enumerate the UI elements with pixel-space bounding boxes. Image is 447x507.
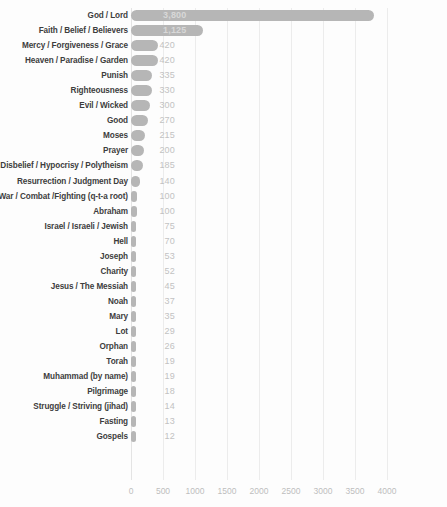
category-label: Faith / Belief / Believers: [39, 23, 128, 38]
x-tick-label: 2000: [250, 486, 269, 496]
bar-value-label: 70: [0, 234, 175, 249]
chart-row: Charity52: [0, 264, 447, 279]
chart-row: Faith / Belief / Believers1,125: [0, 23, 447, 38]
x-tick-label: 3500: [346, 486, 365, 496]
chart-row: War / Combat /Fighting (q-t-a root)100: [0, 189, 447, 204]
chart-row: Hell70: [0, 234, 447, 249]
bar-value-label: 18: [0, 384, 175, 399]
bar-value-label: 330: [0, 83, 175, 98]
bar-value-label: 420: [0, 38, 175, 53]
bar-value-label: 300: [0, 98, 175, 113]
bar-value-label: 75: [0, 219, 175, 234]
bar-value-label: 215: [0, 128, 175, 143]
x-tick-label: 3000: [314, 486, 333, 496]
chart-row: Joseph53: [0, 249, 447, 264]
chart-row: Struggle / Striving (jihad)14: [0, 399, 447, 414]
bar-value-label: 12: [0, 429, 175, 444]
chart-row: Orphan26: [0, 339, 447, 354]
chart-row: Fasting13: [0, 414, 447, 429]
bar-value-label: 100: [0, 204, 175, 219]
bar-value-label: 35: [0, 309, 175, 324]
bar-value-label: 26: [0, 339, 175, 354]
chart-row: Torah19: [0, 354, 447, 369]
bar-value-label: 140: [0, 174, 175, 189]
bar-value-label: 14: [0, 399, 175, 414]
chart-row: Punish335: [0, 68, 447, 83]
chart-row: Pilgrimage18: [0, 384, 447, 399]
bar-value-label: 3,800: [163, 8, 187, 23]
bar-value-label: 29: [0, 324, 175, 339]
x-tick-label: 1500: [218, 486, 237, 496]
chart-row: Righteousness330: [0, 83, 447, 98]
chart-rows: God / Lord3,800Faith / Belief / Believer…: [0, 8, 447, 444]
bar-value-label: 1,125: [163, 23, 187, 38]
bar-value-label: 53: [0, 249, 175, 264]
bar-value-label: 335: [0, 68, 175, 83]
bar-value-label: 45: [0, 279, 175, 294]
chart-row: Moses215: [0, 128, 447, 143]
chart-row: Abraham100: [0, 204, 447, 219]
chart-row: Evil / Wicked300: [0, 98, 447, 113]
x-axis: 05001000150020002500300035004000: [0, 486, 447, 502]
category-label: God / Lord: [88, 8, 128, 23]
chart-row: Heaven / Paradise / Garden420: [0, 53, 447, 68]
chart-row: Good270: [0, 113, 447, 128]
chart-row: Disbelief / Hypocrisy / Polytheism185: [0, 158, 447, 173]
bar-chart: God / Lord3,800Faith / Belief / Believer…: [0, 0, 447, 507]
bar-value-label: 19: [0, 369, 175, 384]
bar-value-label: 420: [0, 53, 175, 68]
bar-value-label: 185: [0, 158, 175, 173]
chart-row: Muhammad (by name)19: [0, 369, 447, 384]
chart-row: Lot29: [0, 324, 447, 339]
bar-value-label: 270: [0, 113, 175, 128]
chart-row: Mercy / Forgiveness / Grace420: [0, 38, 447, 53]
x-tick-label: 0: [129, 486, 134, 496]
chart-row: Gospels12: [0, 429, 447, 444]
x-tick-label: 4000: [378, 486, 397, 496]
chart-row: Israel / Israeli / Jewish75: [0, 219, 447, 234]
chart-row: Resurrection / Judgment Day140: [0, 174, 447, 189]
chart-row: Noah37: [0, 294, 447, 309]
chart-row: Jesus / The Messiah45: [0, 279, 447, 294]
bar-value-label: 200: [0, 143, 175, 158]
bar-value-label: 19: [0, 354, 175, 369]
bar-value-label: 52: [0, 264, 175, 279]
chart-row: Mary35: [0, 309, 447, 324]
x-tick-label: 1000: [186, 486, 205, 496]
bar-value-label: 100: [0, 189, 175, 204]
bar-value-label: 37: [0, 294, 175, 309]
x-tick-label: 2500: [282, 486, 301, 496]
x-tick-label: 500: [156, 486, 170, 496]
chart-row: God / Lord3,800: [0, 8, 447, 23]
bar-value-label: 13: [0, 414, 175, 429]
chart-row: Prayer200: [0, 143, 447, 158]
